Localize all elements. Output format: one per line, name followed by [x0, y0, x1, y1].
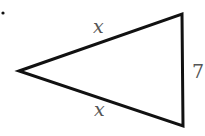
top-side-label: x: [93, 15, 104, 37]
bullet-dot: [1, 11, 4, 14]
bottom-side-label: x: [94, 98, 105, 120]
right-side-label: 7: [192, 60, 204, 82]
triangle-figure: x x 7: [0, 0, 205, 136]
